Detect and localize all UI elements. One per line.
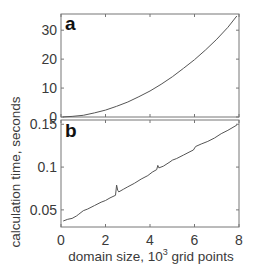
x-tick-label: 4 bbox=[146, 232, 154, 248]
y-axis-label: calculation time, seconds bbox=[8, 96, 23, 247]
panel-a-ticks bbox=[61, 14, 239, 117]
x-tick-label: 8 bbox=[235, 232, 243, 248]
x-axis-label: domain size, 103 grid points bbox=[68, 247, 234, 264]
panel-b-x-tick-labels: 02468 bbox=[57, 232, 243, 248]
y-tick-label: 0.1 bbox=[38, 159, 58, 175]
panel-b-data-line bbox=[63, 125, 237, 221]
panel-a-y-tick-labels: 0102030 bbox=[41, 22, 57, 125]
panel-b-label: b bbox=[65, 120, 77, 141]
panel-a-label: a bbox=[65, 13, 76, 34]
panel-a-data-line bbox=[63, 16, 237, 117]
chart-figure: 0102030 0.050.10.15 02468 a b calculatio… bbox=[0, 0, 253, 277]
y-tick-label: 20 bbox=[41, 51, 57, 67]
x-tick-label: 2 bbox=[102, 232, 110, 248]
y-tick-label: 0.05 bbox=[30, 202, 57, 218]
x-tick-label: 6 bbox=[191, 232, 199, 248]
panel-b-y-tick-labels: 0.050.10.15 bbox=[30, 116, 57, 218]
y-tick-label: 10 bbox=[41, 80, 57, 96]
x-tick-label: 0 bbox=[57, 232, 65, 248]
panel-a-frame bbox=[61, 14, 239, 117]
y-tick-label: 30 bbox=[41, 22, 57, 38]
y-tick-label: 0.15 bbox=[30, 116, 57, 132]
